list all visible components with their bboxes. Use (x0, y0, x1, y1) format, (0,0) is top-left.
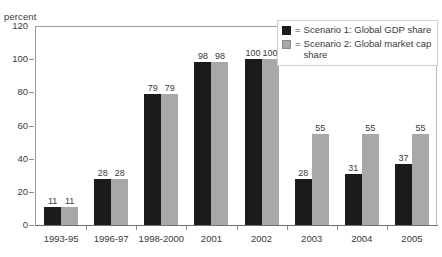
x-tick-mark (287, 226, 288, 230)
bar-value-label: 28 (298, 168, 308, 178)
y-tick-mark (29, 92, 34, 93)
y-tick-100: 100 (0, 59, 35, 60)
x-tick-label: 2001 (201, 233, 222, 244)
legend-swatch-scenario-1 (282, 26, 291, 35)
x-tick-label: 1993-95 (44, 233, 79, 244)
y-tick-40: 40 (0, 159, 35, 160)
x-tick-mark (387, 226, 388, 230)
bar-value-label: 31 (348, 163, 358, 173)
bar-value-label: 28 (98, 168, 108, 178)
x-tick-label: 2002 (251, 233, 272, 244)
bar: 11 (44, 207, 61, 225)
bar-value-label: 55 (315, 123, 325, 133)
bar: 28 (295, 179, 312, 225)
bar-chart: percent 020406080100120 1111282879799898… (0, 0, 442, 257)
bar: 37 (395, 164, 412, 225)
x-tick-label: 1996-97 (94, 233, 129, 244)
bar-group: 100100 (245, 26, 279, 225)
bar: 100 (262, 59, 279, 225)
bar-value-label: 28 (115, 168, 125, 178)
bar: 98 (211, 62, 228, 225)
legend-item-scenario-2: = Scenario 2: Global market cap share (282, 38, 435, 61)
y-tick-mark (29, 225, 34, 226)
bar: 55 (312, 134, 329, 225)
y-tick-label: 20 (17, 186, 28, 197)
bar-value-label: 98 (215, 51, 225, 61)
x-tick-mark (237, 226, 238, 230)
bar-value-label: 79 (165, 83, 175, 93)
y-tick-label: 0 (23, 219, 28, 230)
x-tick-label: 2004 (351, 233, 372, 244)
bar-value-label: 79 (148, 83, 158, 93)
bar-value-label: 55 (415, 123, 425, 133)
y-tick-label: 100 (12, 53, 28, 64)
y-tick-label: 80 (17, 86, 28, 97)
legend-equals-scenario-1: = (295, 24, 301, 36)
y-tick-120: 120 (0, 26, 35, 27)
bar-group: 2828 (94, 26, 128, 225)
legend-equals-scenario-2: = (295, 38, 301, 50)
y-tick-mark (29, 192, 34, 193)
x-tick-label: 2003 (301, 233, 322, 244)
x-tick-label: 2005 (401, 233, 422, 244)
bar-value-label: 100 (263, 48, 278, 58)
y-tick-label: 40 (17, 153, 28, 164)
y-tick-label: 120 (12, 20, 28, 31)
y-tick-mark (29, 59, 34, 60)
y-tick-0: 0 (0, 225, 35, 226)
legend-label-scenario-2: Scenario 2: Global market cap share (304, 38, 435, 61)
y-tick-60: 60 (0, 126, 35, 127)
bar: 100 (245, 59, 262, 225)
bar: 55 (412, 134, 429, 225)
x-tick-mark (136, 226, 137, 230)
bar-group: 1111 (44, 26, 78, 225)
x-tick-mark (186, 226, 187, 230)
x-tick-label: 1998-2000 (139, 233, 184, 244)
bar: 31 (345, 174, 362, 225)
x-tick-mark (86, 226, 87, 230)
bar-value-label: 37 (398, 153, 408, 163)
clipped-title-remnant (66, 0, 306, 3)
y-tick-20: 20 (0, 192, 35, 193)
bar: 79 (144, 94, 161, 225)
bar: 28 (111, 179, 128, 225)
bar: 28 (94, 179, 111, 225)
bar-value-label: 55 (365, 123, 375, 133)
bar-group: 9898 (194, 26, 228, 225)
bar-value-label: 11 (48, 196, 57, 206)
legend-label-scenario-1: Scenario 1: Global GDP share (304, 24, 432, 36)
bar: 98 (194, 62, 211, 225)
bar-group: 7979 (144, 26, 178, 225)
bar: 79 (161, 94, 178, 225)
chart-legend: = Scenario 1: Global GDP share = Scenari… (277, 20, 438, 66)
bar-value-label: 98 (198, 51, 208, 61)
bar: 55 (362, 134, 379, 225)
x-tick-mark (337, 226, 338, 230)
bar: 11 (61, 207, 78, 225)
y-tick-80: 80 (0, 92, 35, 93)
legend-swatch-scenario-2 (282, 40, 291, 49)
bar-value-label: 100 (246, 48, 261, 58)
y-tick-mark (29, 159, 34, 160)
legend-item-scenario-1: = Scenario 1: Global GDP share (282, 24, 435, 36)
y-tick-mark (29, 126, 34, 127)
bar-value-label: 11 (65, 196, 74, 206)
y-tick-label: 60 (17, 120, 28, 131)
